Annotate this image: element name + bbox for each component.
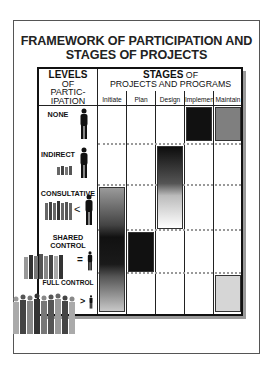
single-person-icon: [79, 108, 89, 140]
full-control-crowd-icon: [12, 293, 80, 335]
col-divider: [213, 91, 214, 314]
stage-initiate: Initiate: [98, 94, 126, 105]
level-shared-line2: CONTROL: [39, 242, 97, 250]
diagram-title: FRAMEWORK OF PARTICIPATION AND STAGES OF…: [13, 34, 260, 62]
stages-header: STAGES OF PROJECTS AND PROGRAMS: [98, 71, 243, 88]
cell-none-implement: [186, 107, 212, 141]
title-line-2: STAGES OF PROJECTS: [13, 48, 260, 62]
col-divider: [155, 91, 156, 314]
levels-header: LEVELS OF PARTIC- IPATION: [39, 71, 97, 105]
single-person-icon: [84, 194, 94, 226]
col-divider: [126, 91, 127, 314]
framework-table: LEVELS OF PARTIC- IPATION STAGES OF PROJ…: [37, 67, 243, 316]
level-full-control: FULL CONTROL: [39, 279, 97, 287]
stage-design: Design: [156, 94, 184, 105]
level-none: NONE: [39, 111, 77, 119]
stage-implement: Implement: [185, 94, 213, 105]
single-person-icon: [88, 295, 94, 309]
row-divider: [98, 143, 241, 145]
stage-plan: Plan: [127, 94, 155, 105]
cell-full-maintain: [215, 275, 241, 312]
shared-control-group-icon: [24, 253, 64, 279]
cell-initiate-gradient: [99, 187, 125, 312]
cell-design-gradient: [157, 146, 183, 229]
greater-than-symbol: >: [80, 296, 85, 306]
stage-maintain: Maintain: [214, 94, 242, 105]
equals-symbol: =: [77, 254, 83, 265]
level-shared-control: SHARED CONTROL: [39, 234, 97, 250]
levels-header-ipation: IPATION: [39, 97, 97, 106]
single-person-icon: [79, 147, 89, 179]
level-indirect: INDIRECT: [39, 151, 77, 159]
group-icon: [45, 200, 73, 220]
title-line-1: FRAMEWORK OF PARTICIPATION AND: [13, 34, 260, 48]
col-divider: [184, 91, 185, 314]
cell-shared-plan: [128, 232, 154, 272]
less-than-symbol: <: [74, 203, 80, 215]
single-person-icon: [86, 251, 94, 271]
cell-none-maintain: [215, 107, 241, 141]
header-divider: [39, 105, 241, 106]
stages-header-subtitle: PROJECTS AND PROGRAMS: [98, 80, 243, 89]
small-group-icon: [57, 165, 73, 175]
